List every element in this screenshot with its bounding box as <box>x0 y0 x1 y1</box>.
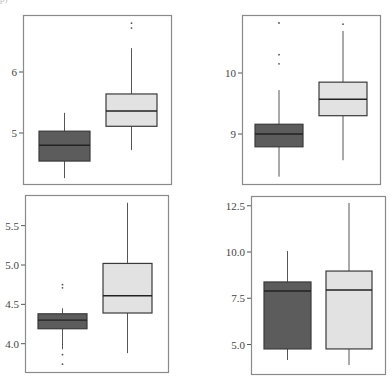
outlier-point <box>342 23 344 25</box>
y-tick-label: 6 <box>12 66 18 78</box>
outlier-point <box>131 27 133 29</box>
outlier-point <box>131 22 133 24</box>
y-tick-label: 5 <box>12 127 18 139</box>
iqr-box <box>264 282 311 349</box>
iqr-box <box>106 94 157 126</box>
y-tick-label: 12.5 <box>226 200 246 212</box>
box-light <box>319 23 367 160</box>
y-tick-label: 9 <box>231 128 237 140</box>
outlier-point <box>278 22 280 24</box>
panel-bottom-right: 5.07.510.012.5 <box>226 197 386 375</box>
box-dark <box>255 22 303 177</box>
outlier-point <box>62 354 64 356</box>
box-light <box>106 22 157 150</box>
outlier-point <box>62 363 64 365</box>
iqr-box <box>39 131 90 161</box>
outlier-point <box>62 287 64 289</box>
panel-bottom-left: 4.04.55.05.5 <box>5 196 168 373</box>
box-dark <box>38 284 87 365</box>
iqr-box <box>326 271 372 349</box>
panel-top-left: 56 <box>12 16 172 185</box>
box-light <box>103 203 152 353</box>
box-dark <box>39 113 90 178</box>
box-light <box>326 203 372 365</box>
outlier-point <box>278 63 280 65</box>
box-dark <box>264 251 311 360</box>
y-tick-label: 10 <box>225 67 237 79</box>
y-tick-label: 4.5 <box>5 298 19 310</box>
y-tick-label: 5.5 <box>5 220 19 232</box>
panel-top-right: 910 <box>225 16 381 185</box>
outlier-point <box>278 54 280 56</box>
y-tick-label: 10.0 <box>226 246 246 258</box>
iqr-box <box>255 124 303 147</box>
y-tick-label: 4.0 <box>5 338 19 350</box>
y-tick-label: 5.0 <box>5 259 19 271</box>
iqr-box <box>38 314 87 329</box>
y-tick-label: 7.5 <box>231 292 245 304</box>
iqr-box <box>103 263 152 313</box>
y-tick-label: 5.0 <box>231 339 245 351</box>
outlier-point <box>62 284 64 286</box>
boxplot-grid: 569104.04.55.05.55.07.510.012.5 <box>0 0 392 379</box>
